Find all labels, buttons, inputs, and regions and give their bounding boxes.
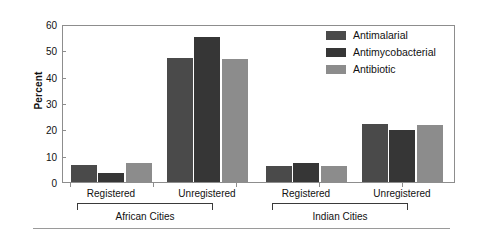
y-axis-title: Percent <box>33 51 44 131</box>
y-tick-label-40: 40 <box>0 72 62 83</box>
bar-antimycobacterial-3 <box>389 130 415 182</box>
group-bracket-african <box>77 203 213 210</box>
x-axis-label-unregistered-indian: Unregistered <box>373 188 430 199</box>
x-tick-mark-3 <box>319 183 320 187</box>
bar-antimycobacterial-0 <box>98 173 124 182</box>
bar-antimycobacterial-1 <box>194 37 220 182</box>
figure-bar-chart: Percent 0 10 20 30 40 50 60 Registered U… <box>0 0 483 244</box>
legend-swatch-icon-antimycobacterial <box>326 48 346 57</box>
x-axis-label-registered-african: Registered <box>87 188 135 199</box>
bar-antimalarial-0 <box>71 165 97 182</box>
legend-label-antibiotic: Antibiotic <box>353 64 396 75</box>
bar-antimalarial-3 <box>362 124 388 182</box>
legend: Antimalarial Antimycobacterial Antibioti… <box>326 28 436 79</box>
bar-antibiotic-1 <box>222 59 248 183</box>
y-tick-label-60: 60 <box>0 20 62 31</box>
legend-item-antimycobacterial: Antimycobacterial <box>326 45 436 60</box>
bar-antimalarial-2 <box>266 166 292 182</box>
x-tick-mark-4 <box>402 183 403 187</box>
bar-antibiotic-3 <box>417 125 443 182</box>
y-tick-label-30: 30 <box>0 99 62 110</box>
group-bracket-indian <box>272 203 408 210</box>
bar-antimycobacterial-2 <box>293 163 319 182</box>
legend-label-antimycobacterial: Antimycobacterial <box>353 47 436 58</box>
legend-swatch-icon-antimalarial <box>326 31 346 40</box>
x-axis-label-unregistered-african: Unregistered <box>178 188 235 199</box>
footer-divider <box>33 228 450 229</box>
y-tick-label-10: 10 <box>0 151 62 162</box>
y-tick-label-20: 20 <box>0 125 62 136</box>
bar-antibiotic-0 <box>126 163 152 182</box>
bar-antimalarial-1 <box>167 58 193 182</box>
y-tick-label-0: 0 <box>0 178 62 189</box>
y-tick-label-50: 50 <box>0 46 62 57</box>
group-label-indian: Indian Cities <box>312 211 367 222</box>
legend-swatch-icon-antibiotic <box>326 65 346 74</box>
legend-label-antimalarial: Antimalarial <box>353 30 408 41</box>
legend-item-antimalarial: Antimalarial <box>326 28 436 43</box>
x-tick-mark-1 <box>153 183 154 187</box>
bar-antibiotic-2 <box>321 166 347 182</box>
x-axis-label-registered-indian: Registered <box>282 188 330 199</box>
x-tick-mark-0 <box>70 183 71 187</box>
group-label-african: African Cities <box>116 211 175 222</box>
legend-item-antibiotic: Antibiotic <box>326 62 436 77</box>
x-tick-mark-2 <box>236 183 237 187</box>
